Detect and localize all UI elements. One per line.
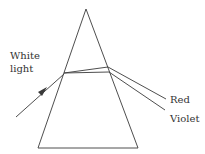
prism: [38, 9, 138, 148]
emergent-ray-red: [108, 67, 166, 99]
label-red: Red: [170, 94, 190, 105]
arrow-icon: [38, 87, 47, 96]
emergent-ray-violet: [109, 72, 165, 110]
label-light: light: [10, 63, 33, 74]
label-white: White: [10, 50, 40, 61]
incident-ray: [16, 74, 64, 117]
prism-diagram: White light Red Violet: [0, 0, 205, 154]
label-violet: Violet: [169, 113, 199, 124]
